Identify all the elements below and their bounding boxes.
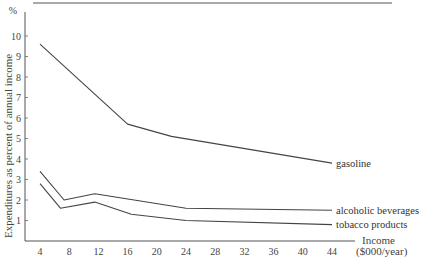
x-tick-label: 32 — [239, 246, 249, 257]
y-tick-label: 6 — [16, 113, 21, 124]
y-tick-label: 7 — [16, 92, 21, 103]
y-tick-label: 9 — [16, 51, 21, 62]
x-tick-label: 44 — [327, 246, 337, 257]
x-tick-label: 12 — [93, 246, 103, 257]
y-tick-label: 5 — [16, 133, 21, 144]
y-tick-label: 1 — [16, 215, 21, 226]
axes — [25, 12, 355, 241]
x-tick-label: 8 — [67, 246, 72, 257]
series-line-tobacco-products — [40, 184, 332, 225]
series-lines — [40, 44, 332, 224]
series-label: tobacco products — [336, 219, 407, 230]
y-tick-label: 2 — [16, 195, 21, 206]
axis-labels: 12345678910%48121620242832364044Income($… — [2, 5, 419, 258]
x-tick-label: 40 — [298, 246, 308, 257]
series-line-gasoline — [40, 44, 332, 163]
x-tick-label: 28 — [210, 246, 220, 257]
line-chart: 12345678910%48121620242832364044Income($… — [0, 0, 426, 261]
series-label: alcoholic beverages — [336, 205, 419, 216]
y-tick-label: 4 — [16, 154, 21, 165]
y-tick-label: 8 — [16, 72, 21, 83]
y-tick-label: 10 — [11, 31, 21, 42]
x-tick-label: 24 — [181, 246, 191, 257]
y-tick-label: 3 — [16, 174, 21, 185]
x-tick-label: 20 — [152, 246, 162, 257]
series-label: gasoline — [336, 158, 371, 169]
x-axis-unit: ($000/year) — [356, 245, 408, 258]
x-tick-label: 36 — [269, 246, 279, 257]
x-tick-label: 16 — [123, 246, 133, 257]
x-tick-label: 4 — [38, 246, 43, 257]
y-unit-label: % — [9, 5, 17, 16]
y-axis-title: Expenditures as percent of annual income — [2, 54, 14, 238]
